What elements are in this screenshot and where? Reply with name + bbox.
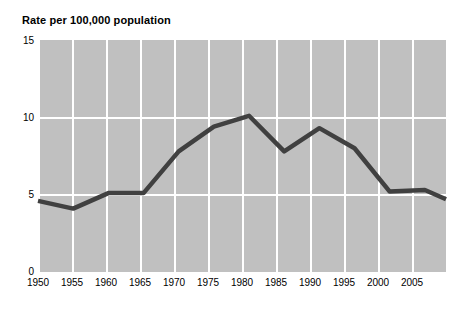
x-tick-label-2005: 2005 [395, 277, 429, 288]
line-chart-figure: Rate per 100,000 population 15 10 5 0 19… [0, 0, 474, 309]
y-tick-label-15: 15 [4, 36, 34, 46]
x-tick-label-1960: 1960 [89, 277, 123, 288]
x-tick-label-1965: 1965 [123, 277, 157, 288]
x-tick-label-2000: 2000 [361, 277, 395, 288]
x-tick-label-1975: 1975 [191, 277, 225, 288]
x-tick-label-1950: 1950 [21, 277, 55, 288]
y-tick-label-5: 5 [4, 190, 34, 200]
data-series-line [38, 40, 446, 272]
y-tick-label-0: 0 [4, 267, 34, 277]
y-tick-label-10: 10 [4, 113, 34, 123]
plot-area [38, 40, 446, 272]
x-tick-label-1990: 1990 [293, 277, 327, 288]
chart-title: Rate per 100,000 population [22, 14, 171, 26]
x-tick-label-1985: 1985 [259, 277, 293, 288]
x-tick-label-1995: 1995 [327, 277, 361, 288]
x-tick-label-1970: 1970 [157, 277, 191, 288]
x-tick-label-1980: 1980 [225, 277, 259, 288]
y-axis-labels: 15 10 5 0 [0, 0, 34, 309]
x-tick-label-1955: 1955 [55, 277, 89, 288]
